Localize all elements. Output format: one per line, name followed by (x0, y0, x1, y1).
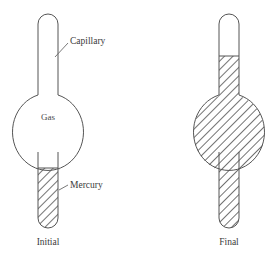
apparatus-figure: Gas Capillary Mercury Initial Final (0, 0, 277, 258)
capillary-label: Capillary (70, 36, 106, 46)
gas-label: Gas (41, 112, 55, 122)
mercury-label: Mercury (70, 180, 103, 190)
caption-final: Final (219, 237, 239, 247)
caption-initial: Initial (37, 237, 60, 247)
